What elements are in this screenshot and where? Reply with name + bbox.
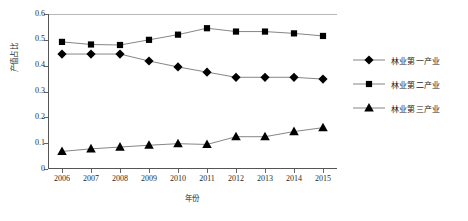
data-point (144, 56, 153, 65)
y-tick-label: 0.1 (35, 138, 45, 147)
data-point (115, 142, 125, 151)
data-point (59, 39, 65, 45)
legend-label: 林业第一产业 (391, 55, 440, 66)
x-tick-mark (294, 169, 295, 173)
data-point (117, 42, 123, 48)
series-2 (59, 25, 326, 48)
y-tick-label: 0.4 (35, 60, 45, 69)
data-point (175, 32, 181, 38)
plot-area: 00.10.20.30.40.50.6 20062007200820092010… (48, 14, 337, 169)
data-point (144, 140, 154, 149)
x-tick-mark (91, 169, 92, 173)
legend-label: 林业第三产业 (391, 103, 440, 114)
y-tick-label: 0.5 (35, 34, 45, 43)
y-tick-label: 0 (41, 164, 45, 173)
x-tick-mark (236, 169, 237, 173)
data-point (233, 28, 239, 34)
x-tick-mark (178, 169, 179, 173)
series-1 (57, 49, 327, 83)
y-tick-label: 0.6 (35, 9, 45, 18)
x-tick-mark (265, 169, 266, 173)
legend-item-2[interactable]: 林业第二产业 (352, 72, 464, 96)
chart-legend: 林业第一产业林业第二产业林业第三产业 (352, 48, 464, 120)
data-point (204, 25, 210, 31)
legend-item-3[interactable]: 林业第三产业 (352, 96, 464, 120)
series-line (62, 28, 323, 45)
x-tick-mark (149, 169, 150, 173)
data-point (231, 73, 240, 82)
data-point (291, 30, 297, 36)
data-point (318, 123, 328, 132)
data-point (231, 132, 241, 141)
data-point (320, 33, 326, 39)
series-line (62, 54, 323, 79)
line-chart: 产值占比 00.10.20.30.40.50.6 200620072008200… (0, 0, 468, 221)
data-point (57, 49, 66, 58)
data-point (88, 41, 94, 47)
x-tick-mark (62, 169, 63, 173)
x-tick-label: 2015 (306, 174, 340, 183)
square-marker-icon (352, 77, 386, 91)
data-point (86, 144, 96, 153)
series-3 (57, 123, 328, 155)
data-point (115, 49, 124, 58)
series-layer (48, 14, 337, 169)
data-point (260, 73, 269, 82)
x-axis-title: 年份 (48, 192, 337, 203)
x-tick-mark (323, 169, 324, 173)
y-tick-label: 0.2 (35, 112, 45, 121)
legend-item-1[interactable]: 林业第一产业 (352, 48, 464, 72)
data-point (318, 75, 327, 84)
data-point (262, 28, 268, 34)
legend-label: 林业第二产业 (391, 79, 440, 90)
x-tick-mark (207, 169, 208, 173)
data-point (289, 73, 298, 82)
y-tick-label: 0.3 (35, 86, 45, 95)
data-point (146, 37, 152, 43)
triangle-marker-icon (352, 101, 386, 115)
series-line (62, 128, 323, 152)
data-point (202, 68, 211, 77)
data-point (173, 139, 183, 148)
data-point (173, 62, 182, 71)
data-point (86, 49, 95, 58)
diamond-marker-icon (352, 53, 386, 67)
y-axis-title: 产值占比 (8, 19, 19, 97)
x-tick-mark (120, 169, 121, 173)
